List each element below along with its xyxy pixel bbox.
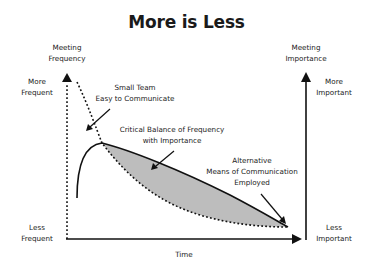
alternative-line1: Alternative [200,155,304,166]
left-axis-title-line2: Frequency [44,53,90,64]
right-axis-title-line1: Meeting [282,42,330,53]
small-team-line2: Easy to Communicate [90,93,180,104]
alternative-line3: Employed [200,177,304,188]
left-axis-title-line1: Meeting [44,42,90,53]
left-axis-bottom-line2: Frequent [14,233,60,244]
alternative-means-annotation: Alternative Means of Communication Emplo… [200,155,304,188]
left-axis-top-label: More Frequent [14,76,60,98]
right-axis-bottom-line1: Less [310,222,358,233]
left-axis-bottom-label: Less Frequent [14,222,60,244]
left-axis-top-line2: Frequent [14,87,60,98]
critical-line1: Critical Balance of Frequency [112,124,232,135]
right-axis-bottom-line2: Important [310,233,358,244]
small-team-annotation: Small Team Easy to Communicate [90,82,180,104]
left-axis-title: Meeting Frequency [44,42,90,64]
right-axis-title-line2: Importance [282,53,330,64]
right-axis-top-line2: Important [310,87,358,98]
right-axis-title: Meeting Importance [282,42,330,64]
left-axis-arrow-icon [62,73,72,82]
right-axis-top-label: More Important [310,76,358,98]
left-axis-top-line1: More [14,76,60,87]
right-axis-top-line1: More [310,76,358,87]
right-axis-bottom-label: Less Important [310,222,358,244]
x-axis-arrow-icon [292,234,302,244]
left-axis-bottom-line1: Less [14,222,60,233]
critical-balance-annotation: Critical Balance of Frequency with Impor… [112,124,232,146]
alternative-line2: Means of Communication [200,166,304,177]
x-axis-label: Time [164,249,204,260]
critical-line2: with Importance [112,135,232,146]
small-team-line1: Small Team [90,82,180,93]
